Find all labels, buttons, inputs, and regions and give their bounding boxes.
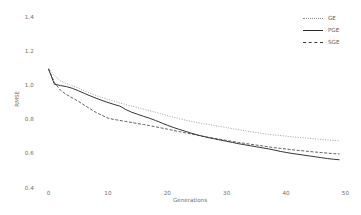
x-tick-30: 30 — [217, 191, 237, 197]
legend-label-sge: SGE — [328, 38, 339, 47]
chart-figure: 0.40.60.81.01.21.4 01020304050 RMSE Gene… — [0, 0, 361, 215]
legend-label-pge: PGE — [328, 26, 339, 35]
y-tick-1-2: 1.2 — [14, 49, 34, 55]
x-tick-40: 40 — [276, 191, 296, 197]
legend-item-ge[interactable]: GE — [303, 14, 355, 23]
y-axis-title: RMSE — [15, 79, 21, 119]
x-tick-20: 20 — [157, 191, 177, 197]
legend-swatch-pge — [303, 30, 323, 31]
y-tick-1-4: 1.4 — [14, 15, 34, 21]
series-line-ge — [49, 68, 340, 141]
legend-swatch-sge — [303, 42, 323, 43]
y-tick-0-4: 0.4 — [14, 186, 34, 192]
series-line-pge — [49, 69, 340, 160]
legend-swatch-ge — [303, 18, 323, 19]
legend-item-pge[interactable]: PGE — [303, 26, 355, 35]
x-tick-10: 10 — [98, 191, 118, 197]
chart-legend: GEPGESGE — [303, 14, 355, 48]
x-axis-title: Generations — [160, 198, 220, 204]
y-tick-0-6: 0.6 — [14, 151, 34, 157]
x-tick-0: 0 — [39, 191, 59, 197]
series-line-sge — [49, 69, 340, 154]
legend-item-sge[interactable]: SGE — [303, 38, 355, 47]
x-tick-50: 50 — [336, 191, 356, 197]
legend-label-ge: GE — [328, 14, 336, 23]
